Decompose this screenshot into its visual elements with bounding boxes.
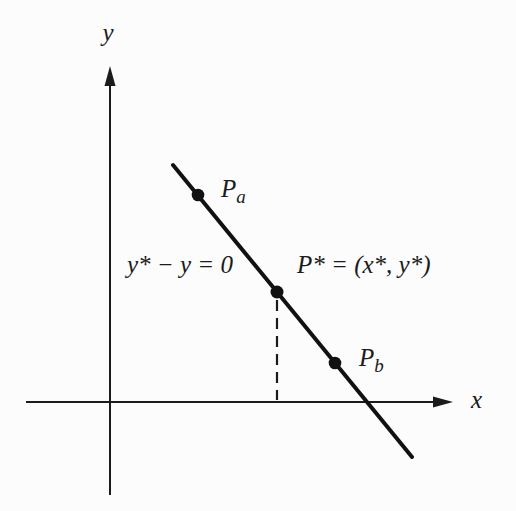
point-pb-label: Pb — [358, 344, 384, 376]
diagram-canvas: y x y* − y = 0 P* = (x*, y*) Pa Pb — [0, 0, 516, 511]
point-pa-label: Pa — [220, 175, 246, 207]
y-axis-label: y — [99, 19, 114, 46]
y-axis-arrowhead-icon — [105, 66, 116, 86]
p-star-equation-label: P* = (x*, y*) — [296, 251, 430, 279]
point-pstar-dot — [271, 286, 284, 299]
point-pb-dot — [329, 357, 342, 370]
math-diagram-figure: y x y* − y = 0 P* = (x*, y*) Pa Pb — [0, 0, 516, 511]
line-through-points — [173, 165, 412, 457]
x-axis-label: x — [470, 386, 482, 413]
point-pb-label-sub: b — [374, 355, 384, 376]
point-pa-label-sub: a — [236, 186, 246, 207]
point-pb-label-main: P — [358, 344, 374, 371]
line-equation-label: y* − y = 0 — [124, 251, 233, 278]
x-axis-arrowhead-icon — [433, 397, 453, 408]
point-pa-label-main: P — [220, 175, 236, 202]
point-pa-dot — [192, 189, 205, 202]
